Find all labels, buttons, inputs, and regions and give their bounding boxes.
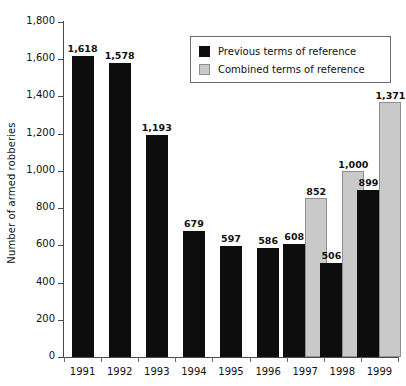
x-axis-tick-label: 1995: [212, 366, 249, 377]
bar-previous-terms: 597: [220, 246, 242, 357]
x-axis-tick-mark: [361, 357, 362, 362]
y-axis-tick: 1,400: [0, 96, 64, 97]
x-axis-tick-mark: [175, 357, 176, 362]
gray-square-swatch: [199, 64, 210, 75]
y-axis-tick-label: 600: [36, 238, 55, 249]
x-axis-tick-label: 1996: [250, 366, 287, 377]
x-axis-line: [63, 357, 399, 358]
bar-value-label: 1,618: [68, 43, 98, 54]
bar-previous-terms: 679: [183, 231, 205, 357]
bar-value-label: 899: [359, 177, 379, 188]
bar-value-label: 506: [321, 250, 341, 261]
bar-previous-terms: 586: [257, 248, 279, 357]
legend-item-label: Previous terms of reference: [218, 46, 356, 57]
bar-value-label: 1,000: [338, 159, 368, 170]
bar-value-label: 608: [284, 231, 304, 242]
y-axis-tick-label: 1,400: [26, 89, 55, 100]
x-axis-tick-mark: [101, 357, 102, 362]
y-axis-tick: 0: [0, 357, 64, 358]
x-axis-tick-label: 1991: [64, 366, 101, 377]
chart-legend: Previous terms of reference Combined ter…: [190, 36, 391, 83]
x-axis-tick-label: 1994: [175, 366, 212, 377]
y-axis-tick: 1,600: [0, 59, 64, 60]
y-axis-tick-label: 1,200: [26, 127, 55, 138]
y-axis-tick-label: 1,000: [26, 164, 55, 175]
bar-value-label: 852: [306, 186, 326, 197]
bar-previous-terms: 608: [283, 244, 305, 357]
x-axis-tick-mark: [398, 357, 399, 362]
x-axis-tick-label: 1998: [324, 366, 361, 377]
y-axis-tick-label: 800: [36, 201, 55, 212]
bar-value-label: 586: [258, 235, 278, 246]
legend-item-label: Combined terms of reference: [218, 64, 365, 75]
y-axis-tick: 200: [0, 320, 64, 321]
x-axis-tick-label: 1992: [101, 366, 138, 377]
y-axis-tick-label: 1,800: [26, 15, 55, 26]
legend-item-previous: Previous terms of reference: [199, 42, 382, 60]
x-axis-tick-mark: [250, 357, 251, 362]
x-axis-tick-mark: [212, 357, 213, 362]
bar-value-label: 1,371: [375, 90, 405, 101]
y-axis-tick: 1,800: [0, 22, 64, 23]
y-axis-tick-label: 1,600: [26, 52, 55, 63]
x-axis-tick-mark: [287, 357, 288, 362]
y-axis-tick: 1,000: [0, 171, 64, 172]
x-axis-tick-label: 1993: [138, 366, 175, 377]
y-axis-title: Number of armed robberies: [0, 0, 22, 386]
x-axis-tick-label: 1997: [287, 366, 324, 377]
y-axis-tick: 800: [0, 208, 64, 209]
bar-value-label: 679: [184, 218, 204, 229]
bar-previous-terms: 899: [357, 190, 379, 357]
x-axis-tick-mark: [64, 357, 65, 362]
x-axis-tick-label: 1999: [361, 366, 398, 377]
bar-chart: Number of armed robberies 02004006008001…: [0, 0, 406, 386]
y-axis-tick-label: 200: [36, 313, 55, 324]
y-axis-tick: 1,200: [0, 134, 64, 135]
x-axis-tick-mark: [324, 357, 325, 362]
y-axis-tick: 400: [0, 283, 64, 284]
bar-previous-terms: 1,618: [72, 56, 94, 357]
legend-item-combined: Combined terms of reference: [199, 60, 382, 78]
y-axis-tick-label: 0: [49, 350, 55, 361]
bar-combined-terms: 1,371: [379, 102, 401, 357]
y-axis-tick: 600: [0, 245, 64, 246]
bar-previous-terms: 1,578: [109, 63, 131, 357]
bar-value-label: 597: [221, 233, 241, 244]
black-square-swatch: [199, 46, 210, 57]
y-axis-tick-label: 400: [36, 276, 55, 287]
bar-previous-terms: 1,193: [146, 135, 168, 357]
bar-value-label: 1,193: [142, 122, 172, 133]
bar-value-label: 1,578: [105, 50, 135, 61]
bar-previous-terms: 506: [320, 263, 342, 357]
x-axis-tick-mark: [138, 357, 139, 362]
